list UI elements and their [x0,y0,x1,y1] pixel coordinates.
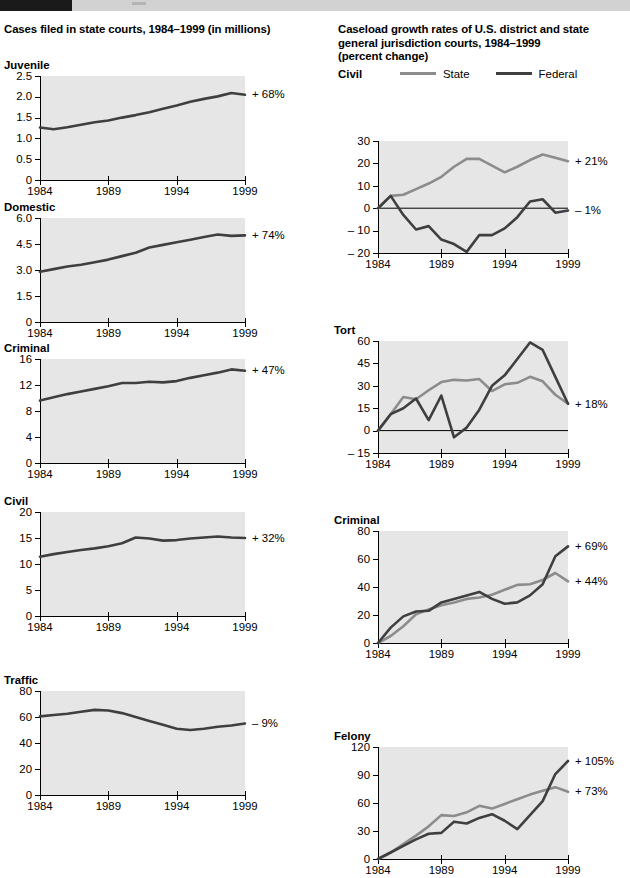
y-label-left-civil-1: 5 [0,584,32,596]
right-column-title: Caseload growth rates of U.S. district a… [330,11,630,64]
y-label-right-civil-5: 30 [330,135,370,147]
y-tick-right-civil-2 [373,208,379,209]
left-column: Cases filed in state courts, 1984–1999 (… [0,11,330,867]
x-tick-right-felony-1 [441,855,442,864]
y-tick-left-criminal-2 [35,411,41,412]
x-tick-right-criminal-2 [505,639,506,648]
x-tick-left-criminal-3 [245,459,246,468]
y-tick-right-felony-3 [373,775,379,776]
x-label-left-juvenile-0: 1984 [27,185,52,197]
y-tick-right-felony-2 [373,803,379,804]
y-label-right-tort-2: 15 [330,402,370,414]
y-tick-left-traffic-1 [35,769,41,770]
annotation-left-criminal-0: + 47% [252,364,285,376]
y-label-left-domestic-3: 4.5 [0,238,32,250]
y-tick-left-juvenile-5 [35,76,41,77]
x-tick-left-traffic-2 [177,791,178,800]
x-label-right-tort-0: 1984 [365,458,390,470]
x-label-right-felony-3: 1999 [555,864,580,876]
x-axis-line-left-juvenile [40,180,245,181]
x-tick-right-tort-1 [441,449,442,458]
y-tick-right-felony-1 [373,831,379,832]
y-label-right-civil-3: 10 [330,180,370,192]
y-tick-right-felony-4 [373,747,379,748]
right-charts: – 20– 1001020301984198919941999+ 21%– 1%… [330,80,630,878]
y-label-left-criminal-2: 8 [0,405,32,417]
y-label-left-juvenile-3: 1.5 [0,111,32,123]
annotation-right-criminal-1: + 44% [575,575,608,587]
y-label-right-felony-4: 120 [330,741,370,753]
right-title-line-1: Caseload growth rates of U.S. district a… [338,23,630,37]
y-tick-right-tort-4 [373,363,379,364]
x-tick-right-felony-3 [568,855,569,864]
x-tick-right-civil-0 [378,249,379,258]
plot-area-right-tort [378,341,568,453]
y-tick-left-juvenile-3 [35,118,41,119]
legend-chart-name: Civil [338,68,400,80]
y-label-right-civil-2: 0 [330,202,370,214]
y-tick-left-juvenile-4 [35,97,41,98]
y-tick-left-criminal-1 [35,437,41,438]
y-axis-line-left-juvenile [40,76,41,180]
y-label-left-traffic-3: 60 [0,711,32,723]
x-label-right-criminal-0: 1984 [365,648,390,660]
x-axis-line-right-felony [378,859,568,860]
x-tick-left-criminal-1 [108,459,109,468]
y-label-left-criminal-3: 12 [0,379,32,391]
x-label-left-domestic-2: 1994 [164,327,189,339]
x-tick-left-juvenile-3 [245,176,246,185]
y-tick-left-traffic-3 [35,717,41,718]
x-label-left-juvenile-2: 1994 [164,185,189,197]
y-tick-left-domestic-1 [35,296,41,297]
y-label-right-criminal-2: 40 [330,581,370,593]
y-label-left-traffic-2: 40 [0,737,32,749]
y-tick-left-domestic-2 [35,270,41,271]
y-label-right-felony-2: 60 [330,797,370,809]
legend-swatch-federal [496,72,532,75]
left-column-title: Cases filed in state courts, 1984–1999 (… [0,11,330,37]
x-label-left-juvenile-1: 1989 [96,185,121,197]
y-label-right-civil-0: – 20 [330,247,370,259]
y-tick-right-tort-5 [373,341,379,342]
y-label-left-domestic-4: 6.0 [0,212,32,224]
x-axis-line-left-civil [40,616,245,617]
x-tick-right-civil-1 [441,249,442,258]
x-tick-left-juvenile-2 [177,176,178,185]
y-tick-left-civil-4 [35,512,41,513]
x-tick-left-domestic-2 [177,318,178,327]
y-tick-left-civil-1 [35,590,41,591]
y-tick-right-criminal-4 [373,531,379,532]
y-label-right-felony-1: 30 [330,825,370,837]
y-tick-right-civil-4 [373,163,379,164]
top-banner [0,0,630,11]
x-tick-right-tort-0 [378,449,379,458]
y-tick-right-civil-1 [373,231,379,232]
x-tick-left-traffic-0 [40,791,41,800]
x-axis-line-right-civil [378,253,568,254]
legend-label-state: State [443,68,470,80]
y-label-left-juvenile-2: 1.0 [0,132,32,144]
y-label-left-criminal-4: 16 [0,353,32,365]
y-label-right-tort-4: 45 [330,357,370,369]
x-axis-line-right-criminal [378,643,568,644]
annotation-right-tort-0: + 18% [575,398,608,410]
y-label-left-criminal-1: 4 [0,431,32,443]
y-tick-left-criminal-4 [35,359,41,360]
y-tick-left-civil-2 [35,564,41,565]
right-title-line-2: general jurisdiction courts, 1984–1999 [338,37,630,51]
x-label-right-criminal-2: 1994 [492,648,517,660]
y-tick-left-civil-3 [35,538,41,539]
x-label-left-traffic-0: 1984 [27,800,52,812]
y-tick-right-criminal-1 [373,615,379,616]
y-axis-line-right-tort [378,341,379,453]
x-tick-left-domestic-0 [40,318,41,327]
x-tick-right-tort-2 [505,449,506,458]
legend-label-federal: Federal [539,68,578,80]
y-label-left-domestic-1: 1.5 [0,290,32,302]
y-label-right-civil-4: 20 [330,157,370,169]
annotation-left-traffic-0: – 9% [252,717,278,729]
x-label-left-criminal-0: 1984 [27,468,52,480]
y-tick-right-criminal-3 [373,559,379,560]
y-label-right-criminal-4: 80 [330,525,370,537]
x-tick-left-civil-0 [40,612,41,621]
